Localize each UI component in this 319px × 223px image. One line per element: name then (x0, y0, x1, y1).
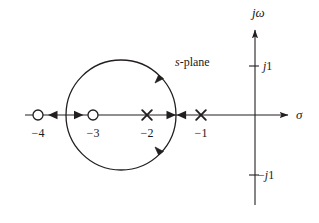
real-arrow-toward-minus3 (74, 111, 84, 119)
locus-arrow-lower (155, 147, 164, 155)
s-plane-label: s-plane (175, 56, 210, 68)
root-locus-figure: jω σ s-plane j1 −j1 −4 −3 −2 −1 (0, 0, 319, 223)
pole-label-minus2: −2 (137, 127, 157, 139)
plot-canvas (0, 0, 319, 223)
locus-arrow-upper (155, 75, 164, 83)
tick-label-j1-value: 1 (266, 59, 272, 73)
tick-label-minus-j1: −j1 (258, 169, 274, 181)
axis-group (25, 30, 288, 205)
s-plane-label-rest: -plane (180, 55, 210, 69)
tick-mark-group (249, 66, 259, 175)
real-arrow-from-minus1 (177, 111, 187, 119)
zero-label-minus4: −4 (28, 127, 48, 139)
real-axis-label: σ (296, 108, 302, 121)
zero-label-minus3: −3 (83, 127, 103, 139)
pole-label-minus1: −1 (191, 127, 211, 139)
real-arrow-from-minus2 (167, 111, 177, 119)
zero-marker-minus4 (33, 110, 43, 120)
tick-label-j1: j1 (263, 60, 272, 72)
tick-label-minus-j1-value: 1 (268, 168, 274, 182)
imaginary-axis-label: jω (252, 6, 265, 19)
zero-marker-minus3 (88, 110, 98, 120)
tick-label-minus-j1-sign: − (258, 168, 265, 182)
real-arrow-toward-minus4 (48, 111, 58, 119)
